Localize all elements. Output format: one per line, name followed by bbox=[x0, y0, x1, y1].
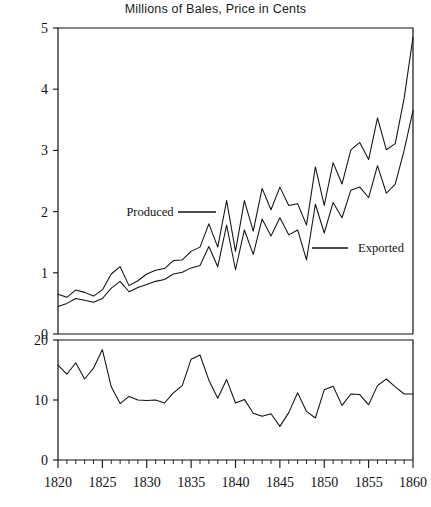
series-line-price bbox=[58, 350, 413, 427]
series-line-exported bbox=[58, 111, 413, 307]
xtick-label: 1855 bbox=[355, 475, 383, 490]
lower-ytick-label: 0 bbox=[41, 453, 48, 468]
chart-figure: Millions of Bales, Price in Cents 012345… bbox=[0, 0, 431, 507]
xtick-label: 1860 bbox=[399, 475, 427, 490]
series-annotation-produced: Produced bbox=[126, 205, 174, 219]
xtick-label: 1830 bbox=[133, 475, 161, 490]
upper-ytick-label: 2 bbox=[41, 205, 48, 220]
upper-ytick-label: 1 bbox=[41, 266, 48, 281]
lower-ytick-label: 10 bbox=[34, 393, 48, 408]
xtick-label: 1840 bbox=[222, 475, 250, 490]
xtick-label: 1820 bbox=[44, 475, 72, 490]
series-annotation-exported: Exported bbox=[358, 241, 405, 255]
lower-ytick-label: 20 bbox=[34, 333, 48, 348]
xtick-label: 1825 bbox=[88, 475, 116, 490]
lower-panel-frame bbox=[58, 340, 413, 460]
upper-ytick-label: 4 bbox=[41, 82, 48, 97]
xtick-label: 1845 bbox=[266, 475, 294, 490]
chart-canvas: 0123450102018201825183018351840184518501… bbox=[0, 0, 431, 507]
xtick-label: 1850 bbox=[310, 475, 338, 490]
series-line-produced bbox=[58, 37, 413, 297]
xtick-label: 1835 bbox=[177, 475, 205, 490]
upper-ytick-label: 3 bbox=[41, 143, 48, 158]
upper-ytick-label: 5 bbox=[41, 21, 48, 36]
